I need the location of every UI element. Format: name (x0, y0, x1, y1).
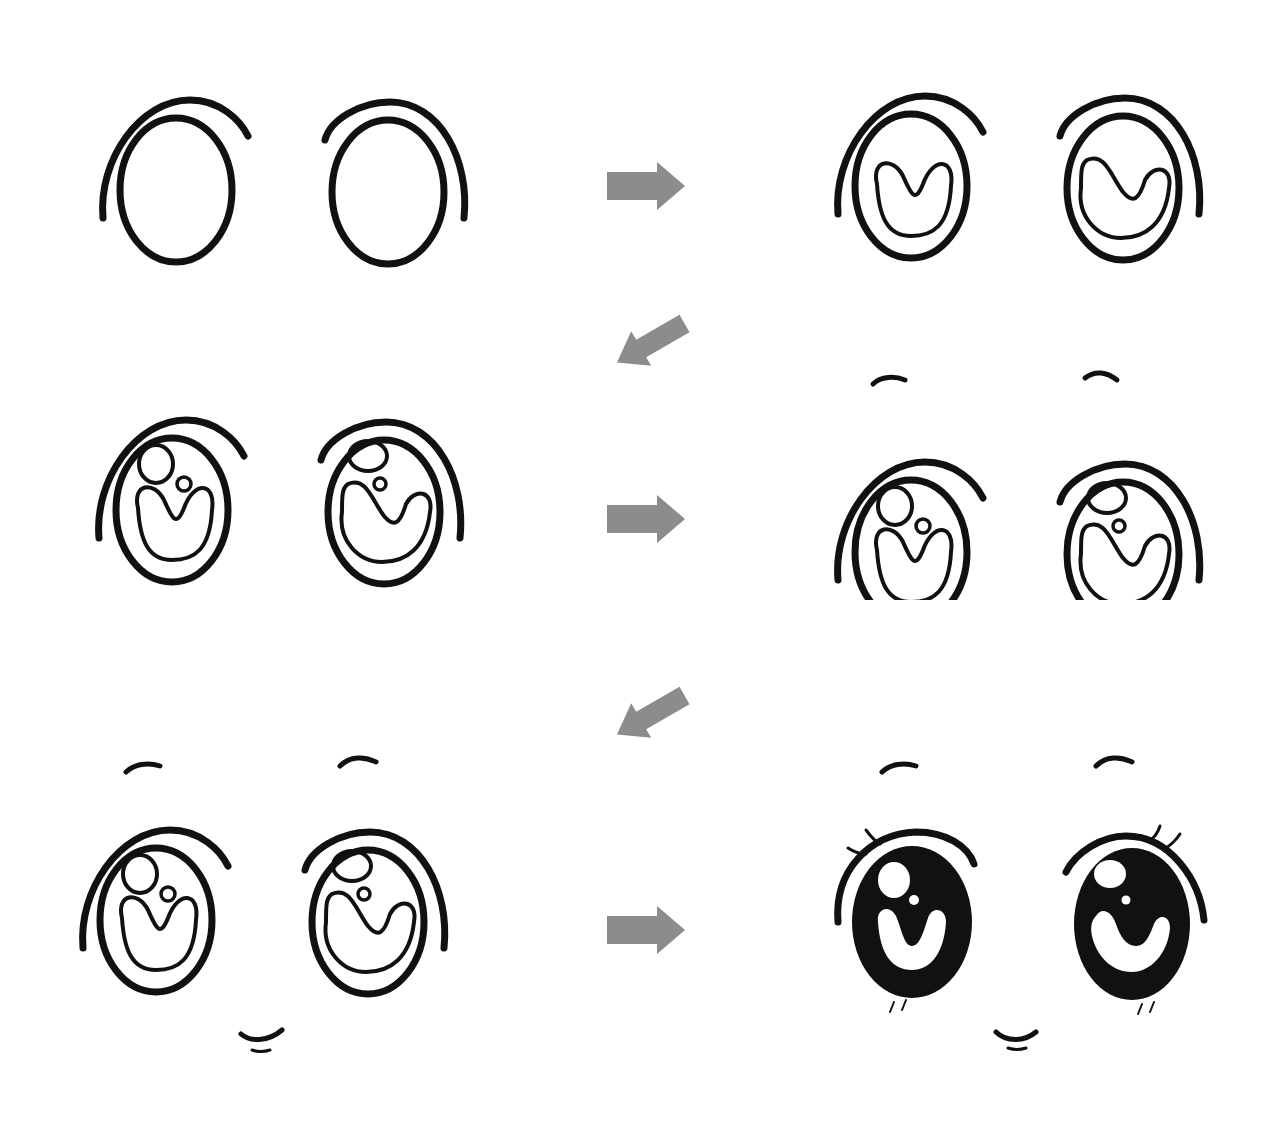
arrow-right-icon (607, 495, 687, 547)
arrow-right-icon (607, 162, 687, 214)
arrow-down-left-icon (608, 684, 690, 752)
step-1-eye-outlines: Step 1: eye outline ovals with upper lid… (80, 80, 500, 280)
arrow-right-icon (607, 906, 687, 958)
eyebrow-left (873, 377, 905, 384)
eyebrow-left (126, 764, 160, 772)
mouth (996, 1032, 1036, 1040)
mouth (241, 1030, 282, 1040)
step-5-mouth: Step 5: add mouth (60, 740, 500, 1070)
step-6-finished-eyes: Step 6: fill pupils, add lashes and blus… (820, 740, 1260, 1070)
step-2-iris: Step 2: add iris U-shape (815, 76, 1235, 276)
step-3-highlights: Step 3: add large and small highlights (76, 400, 496, 600)
arrow-down-left-icon (608, 312, 690, 380)
eyebrow-right (340, 758, 376, 766)
step-4-eyebrows: Step 4: add eyebrows (815, 360, 1235, 600)
eyebrow-right (1085, 373, 1117, 380)
